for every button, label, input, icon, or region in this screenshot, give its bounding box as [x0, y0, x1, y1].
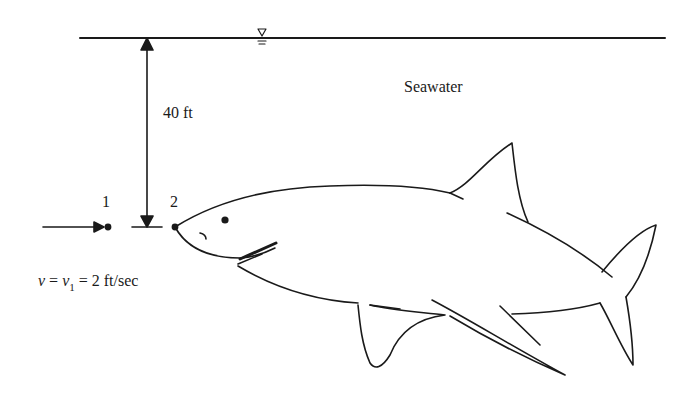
depth-label: 40 ft	[163, 104, 193, 122]
point-1-marker	[105, 224, 110, 229]
shark-outline-icon	[175, 143, 656, 375]
shark-eye	[221, 216, 228, 223]
water-surface-symbol-icon	[258, 29, 266, 44]
velocity-label: v = v1 = 2 ft/sec	[38, 272, 138, 290]
velocity-subscript: 1	[69, 281, 75, 293]
velocity-value: = 2 ft/sec	[75, 272, 139, 289]
flow-arrow-icon	[43, 222, 104, 232]
velocity-eq1: =	[45, 272, 62, 289]
medium-label: Seawater	[404, 78, 463, 96]
point-1-label: 1	[102, 193, 110, 211]
point-2-label: 2	[170, 193, 178, 211]
depth-arrow-icon	[132, 38, 162, 227]
